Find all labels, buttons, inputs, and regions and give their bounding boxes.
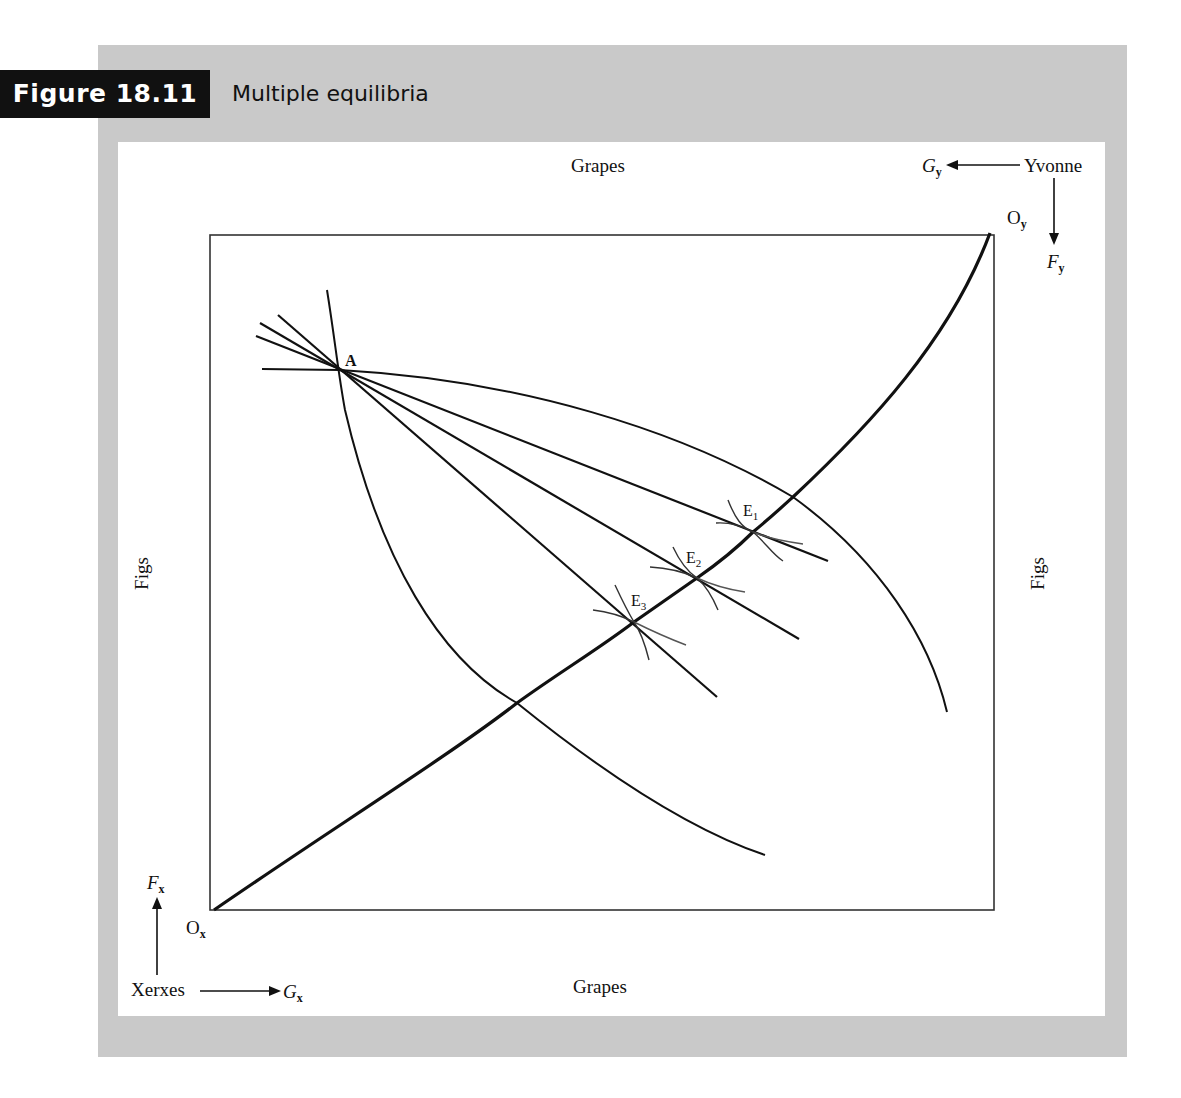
point-e1-label: E1 bbox=[743, 503, 758, 522]
bottom-axis-label: Grapes bbox=[573, 977, 627, 996]
right-axis-label: Figs bbox=[1028, 557, 1047, 590]
point-a-label: A bbox=[345, 353, 357, 369]
arrow-right-icon bbox=[269, 986, 281, 996]
yvonne-label: Yvonne bbox=[1024, 156, 1082, 175]
xerxes-label: Xerxes bbox=[131, 980, 185, 999]
left-axis-label: Figs bbox=[132, 557, 151, 590]
point-e2-label: E2 bbox=[686, 550, 701, 569]
arrow-up-icon bbox=[152, 897, 162, 909]
xerxes-grapes-axis: Gx bbox=[283, 982, 303, 1004]
xerxes-figs-axis: Fx bbox=[147, 873, 165, 895]
origin-oy: Oy bbox=[1007, 208, 1027, 230]
budget-line-e3 bbox=[278, 315, 717, 697]
indifference-curve-yvonne bbox=[262, 369, 947, 712]
arrow-down-icon bbox=[1049, 233, 1059, 245]
yvonne-figs-axis: Fy bbox=[1047, 252, 1065, 274]
origin-ox: Ox bbox=[186, 918, 206, 940]
arrow-left-icon bbox=[946, 160, 958, 170]
point-e3-label: E3 bbox=[631, 593, 646, 612]
top-axis-label: Grapes bbox=[571, 156, 625, 175]
yvonne-grapes-axis: Gy bbox=[922, 156, 942, 178]
edgeworth-box bbox=[210, 235, 994, 910]
